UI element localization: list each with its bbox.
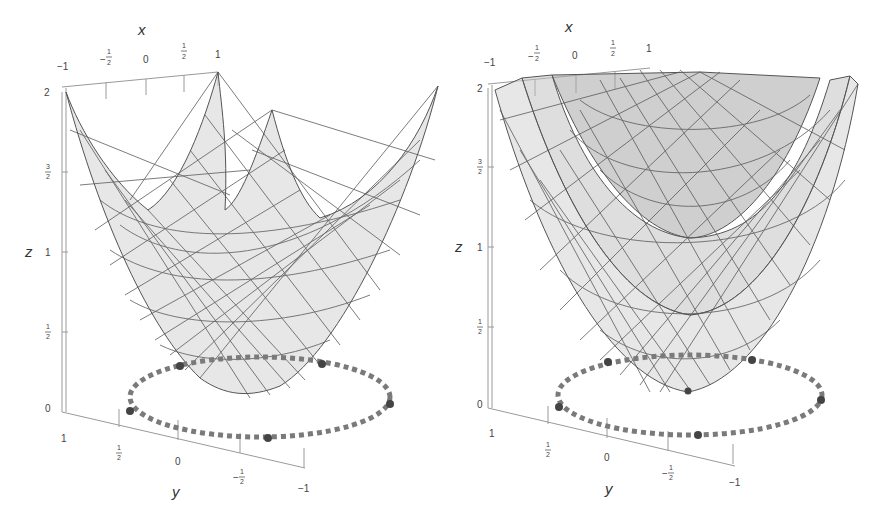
left-x-tick: 1: [107, 48, 111, 55]
left-z-tick: 1: [45, 247, 51, 258]
right-z-tick: 2: [477, 83, 483, 94]
left-x-tick: −1: [57, 61, 69, 72]
right-z-tick: 0: [477, 399, 483, 410]
left-y-axis-title: y: [171, 483, 181, 500]
right-paraboloid-surfaces: [495, 70, 858, 392]
right-y-tick: 1: [489, 428, 495, 439]
right-y-tick: 1: [669, 464, 673, 471]
right-z-axis-title: z: [454, 238, 463, 255]
svg-text:−: −: [100, 54, 106, 65]
ring-point: [604, 358, 612, 366]
left-z-axis-title: z: [24, 243, 33, 260]
svg-text:2: 2: [478, 328, 482, 335]
figure: x −1 − 1 2 0 1 2 1 z 2 3 2 1 1 2 0 y 1 1…: [0, 0, 895, 523]
vertex-point: [685, 388, 692, 395]
svg-text:2: 2: [46, 333, 50, 340]
svg-text:2: 2: [669, 474, 673, 481]
ring-point: [264, 434, 272, 442]
svg-text:2: 2: [611, 50, 615, 57]
right-x-axis-title: x: [564, 18, 573, 35]
svg-text:2: 2: [46, 173, 50, 180]
left-y-tick: 1: [61, 433, 67, 444]
svg-text:−: −: [528, 51, 534, 62]
left-paraboloid-surface: [66, 72, 438, 398]
left-y-tick: −1: [298, 483, 310, 494]
ring-point: [176, 362, 184, 370]
right-x-tick: 1: [611, 39, 615, 46]
svg-text:2: 2: [117, 454, 121, 461]
right-y-tick: −1: [729, 477, 741, 488]
right-x-tick: 1: [646, 43, 652, 54]
right-x-tick: 1: [535, 44, 539, 51]
right-z-tick: 1: [477, 242, 483, 253]
ring-point: [126, 407, 134, 415]
ring-point: [748, 356, 756, 364]
ring-point: [555, 403, 563, 411]
svg-text:−: −: [662, 468, 668, 479]
left-y-tick: 0: [175, 456, 181, 467]
right-z-tick: 3: [478, 158, 482, 165]
right-plot: x −1 − 1 2 0 1 2 1 z 2 3 2 1 1 2 0 y 1 1…: [454, 18, 858, 497]
left-z-tick: 0: [45, 403, 51, 414]
left-x-tick: 1: [182, 42, 186, 49]
right-y-tick: 1: [546, 441, 550, 448]
left-x-tick: 1: [215, 49, 221, 60]
ring-point: [318, 360, 326, 368]
ring-point: [817, 396, 825, 404]
ring-point: [694, 431, 702, 439]
right-z-tick: 1: [478, 318, 482, 325]
left-z-tick: 2: [44, 87, 50, 98]
svg-text:2: 2: [535, 55, 539, 62]
right-x-tick: −1: [484, 57, 496, 68]
right-x-tick: 0: [572, 50, 578, 61]
left-y-tick: 1: [240, 468, 244, 475]
left-plot: x −1 − 1 2 0 1 2 1 z 2 3 2 1 1 2 0 y 1 1…: [24, 21, 438, 500]
svg-text:−: −: [233, 472, 239, 483]
left-z-tick: 1: [46, 323, 50, 330]
svg-text:2: 2: [107, 59, 111, 66]
right-y-axis-title: y: [604, 480, 614, 497]
ring-point: [386, 400, 394, 408]
svg-text:2: 2: [546, 451, 550, 458]
svg-text:2: 2: [240, 478, 244, 485]
left-x-axis-title: x: [137, 21, 146, 38]
left-x-tick: 0: [143, 54, 149, 65]
svg-text:2: 2: [478, 168, 482, 175]
svg-text:2: 2: [182, 53, 186, 60]
left-y-tick: 1: [117, 444, 121, 451]
right-y-tick: 0: [604, 452, 610, 463]
left-z-tick: 3: [46, 163, 50, 170]
